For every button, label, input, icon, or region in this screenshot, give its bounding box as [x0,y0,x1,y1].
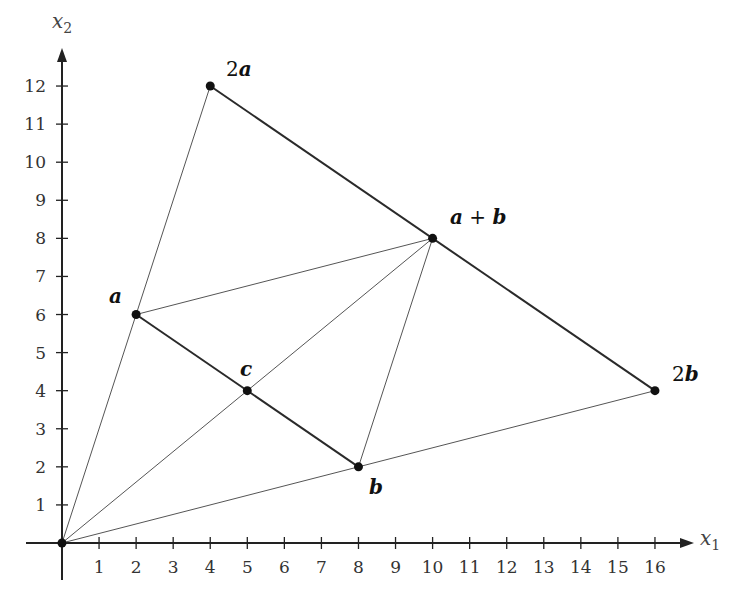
y-tick-label: 9 [35,190,46,210]
y-axis-label: x2 [52,9,72,36]
x-tick-label: 9 [390,557,401,577]
y-tick-label: 1 [35,495,46,515]
label-a-plus-b: a + b [450,205,506,229]
x-axis [26,538,694,548]
x-tick-label: 2 [131,557,142,577]
label-a: a [109,284,122,308]
y-tick-label: 6 [35,305,46,325]
segments [62,86,655,543]
points [58,82,660,548]
x-tick-label: 4 [205,557,216,577]
x-tick-label: 12 [496,557,518,577]
x-tick-label: 3 [168,557,179,577]
x-tick-label: 10 [422,557,444,577]
x-tick-label: 1 [94,557,105,577]
x-tick-label: 13 [533,557,555,577]
x-tick-label: 5 [242,557,253,577]
point-a_plus_b [428,234,437,243]
x-tick-label: 14 [570,557,592,577]
point-two_b [650,386,659,395]
y-tick-label: 2 [35,457,46,477]
vector-diagram: 12345678910111213141516 123456789101112 … [0,0,740,599]
point-c [243,386,252,395]
x-tick-label: 6 [279,557,290,577]
x-tick-label: 7 [316,557,327,577]
y-axis-arrow-icon [57,48,67,62]
label-c: c [240,357,252,381]
y-tick-label: 11 [24,114,46,134]
y-tick-label: 3 [35,419,46,439]
segment-a-a_plus_b [136,238,432,314]
x-tick-label: 15 [607,557,629,577]
label-b: b [369,475,383,499]
x-tick-label: 16 [644,557,666,577]
y-tick-label: 5 [35,343,46,363]
point-origin [58,539,67,548]
x-tick-label: 11 [459,557,481,577]
y-tick-label: 4 [35,381,46,401]
x-tick-label: 8 [353,557,364,577]
y-tick-label: 8 [35,228,46,248]
label-2b: 2b [672,362,699,386]
segment-b-a_plus_b [358,238,432,466]
y-tick-label: 10 [24,152,46,172]
label-2a: 2a [226,57,252,81]
point-a [132,310,141,319]
x-axis-arrow-icon [680,538,694,548]
y-tick-label: 7 [35,266,46,286]
x-axis-label: x1 [700,526,720,553]
point-two_a [206,82,215,91]
point-b [354,462,363,471]
y-tick-label: 12 [24,76,46,96]
